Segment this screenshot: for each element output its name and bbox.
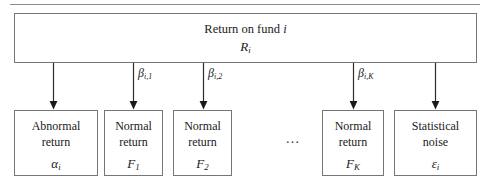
normal-return-1-symbol-sub: 1 <box>135 162 139 172</box>
arrow-glyph <box>349 63 358 110</box>
statistical-noise-symbol-sub: i <box>437 162 439 172</box>
arrow-to-statistical-noise <box>431 63 440 110</box>
beta-label-i1-sub: i,1 <box>144 72 152 81</box>
normal-return-1-word1: Normal <box>115 119 152 133</box>
arrow-glyph <box>49 63 58 110</box>
normal-return-k-word1: Normal <box>335 119 372 133</box>
top-box-title-italic: i <box>283 22 286 36</box>
normal-return-k-symbol: FK <box>346 156 360 172</box>
normal-return-k-word2: return <box>339 135 368 149</box>
normal-return-1-symbol: F1 <box>127 156 139 172</box>
normal-return-2-symbol-sub: 2 <box>204 162 208 172</box>
arrow-glyph <box>199 63 208 110</box>
return-on-fund-box: Return on fund i Ri <box>14 13 477 63</box>
statistical-noise-word2: noise <box>423 135 448 149</box>
ellipsis-between-factors: … <box>272 131 314 147</box>
arrow-glyph <box>431 63 440 110</box>
arrow-to-normal-return-2 <box>199 63 208 110</box>
abnormal-return-box: Abnormal return αi <box>14 110 98 176</box>
normal-return-2-word2: return <box>188 135 217 149</box>
beta-label-i2: βi,2 <box>208 66 222 81</box>
arrow-to-normal-return-k <box>349 63 358 110</box>
header-divider-rule <box>10 4 480 5</box>
abnormal-return-word2: return <box>42 135 71 149</box>
normal-return-2-symbol: F2 <box>196 156 208 172</box>
top-box-title: Return on fund i <box>204 22 286 37</box>
beta-label-i1: βi,1 <box>138 66 152 81</box>
top-box-symbol-subscript: i <box>248 45 250 55</box>
statistical-noise-box: Statistical noise εi <box>394 110 477 176</box>
statistical-noise-symbol: εi <box>432 156 440 172</box>
abnormal-return-symbol: αi <box>51 156 60 172</box>
arrow-to-normal-return-1 <box>129 63 138 110</box>
normal-return-1-box: Normal return F1 <box>104 110 163 176</box>
beta-label-ik-sub: i,K <box>364 72 373 81</box>
return-decomposition-diagram: Return on fund i Ri βi,1 βi,2 <box>0 0 486 184</box>
beta-label-i2-sub: i,2 <box>214 72 222 81</box>
normal-return-k-box: Normal return FK <box>322 110 384 176</box>
abnormal-return-symbol-sub: i <box>58 162 60 172</box>
normal-return-1-word2: return <box>119 135 148 149</box>
statistical-noise-word1: Statistical <box>412 119 459 133</box>
arrow-to-abnormal-return <box>49 63 58 110</box>
normal-return-2-word1: Normal <box>184 119 221 133</box>
top-box-title-text: Return on fund <box>204 22 283 36</box>
arrow-glyph <box>129 63 138 110</box>
normal-return-k-symbol-sub: K <box>354 162 360 172</box>
abnormal-return-word1: Abnormal <box>32 119 81 133</box>
top-box-symbol: Ri <box>240 39 250 55</box>
normal-return-k-symbol-base: F <box>346 156 354 171</box>
beta-label-ik: βi,K <box>358 66 373 81</box>
normal-return-2-box: Normal return F2 <box>173 110 232 176</box>
